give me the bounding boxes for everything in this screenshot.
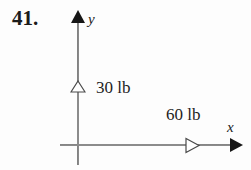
horizontal-force-hollow-arrowhead-icon bbox=[184, 137, 201, 158]
horizontal-force-shaft bbox=[78, 144, 188, 146]
x-axis-label: x bbox=[227, 120, 234, 135]
statics-force-diagram: 41. y x 30 lb 60 lb bbox=[0, 0, 251, 170]
y-axis-arrowhead-icon bbox=[71, 10, 85, 23]
problem-number: 41. bbox=[12, 6, 38, 30]
vertical-force-hollow-arrowhead-icon bbox=[70, 79, 86, 97]
vertical-force-label: 30 lb bbox=[96, 78, 130, 97]
y-axis-label: y bbox=[88, 12, 95, 27]
x-axis-arrowhead-icon bbox=[230, 138, 243, 152]
horizontal-force-label: 60 lb bbox=[166, 105, 200, 124]
